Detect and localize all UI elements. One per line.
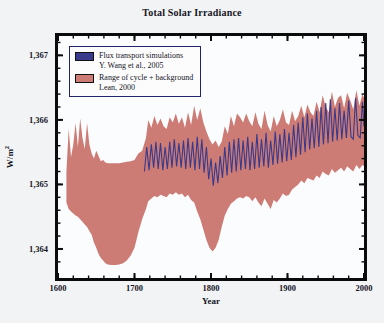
y-tick-label: 1,367: [29, 50, 48, 60]
y-tick-label: 1,365: [29, 179, 48, 189]
x-tick-label: 1800: [203, 283, 220, 293]
y-axis-tick-labels: 1,3641,3651,3661,367: [0, 33, 52, 281]
legend-label-flux-transport-main: Flux transport simulations: [99, 51, 183, 60]
legend-item-range-cycle: Range of cycle + background Lean, 2000: [75, 73, 193, 92]
legend-label-range-cycle-main: Range of cycle + background: [99, 73, 193, 82]
chart-title: Total Solar Irradiance: [0, 7, 384, 18]
x-tick-label: 1700: [126, 283, 143, 293]
y-tick-label: 1,364: [29, 244, 48, 254]
x-tick-label: 2000: [356, 283, 373, 293]
legend-label-range-cycle-source: Lean, 2000: [99, 83, 135, 92]
x-axis-title: Year: [55, 296, 367, 306]
legend-swatch-flux-transport: [75, 52, 94, 61]
range-band-area: [66, 90, 364, 265]
legend-label-flux-transport-source: Y. Wang et al., 2005: [99, 61, 164, 70]
legend-label-range-cycle: Range of cycle + background Lean, 2000: [99, 73, 193, 92]
legend-item-flux-transport: Flux transport simulations Y. Wang et al…: [75, 51, 193, 70]
x-tick-label: 1600: [50, 283, 67, 293]
legend-label-flux-transport: Flux transport simulations Y. Wang et al…: [99, 51, 183, 70]
x-tick-label: 1900: [279, 283, 296, 293]
chart-legend: Flux transport simulations Y. Wang et al…: [69, 46, 201, 97]
legend-swatch-range-cycle: [75, 74, 94, 83]
solar-irradiance-chart: Total Solar Irradiance W/m2 1,3641,3651,…: [0, 0, 384, 323]
x-axis-tick-labels: 16001700180019002000: [55, 283, 367, 297]
y-tick-label: 1,366: [29, 115, 48, 125]
